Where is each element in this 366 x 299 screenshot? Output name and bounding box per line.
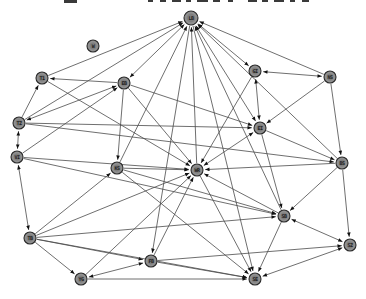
graph-edge (256, 79, 260, 120)
graph-edge (48, 21, 182, 75)
node-label: LB (188, 15, 194, 21)
cropped-text-fragment (290, 0, 295, 2)
graph-node[interactable]: LB (184, 11, 198, 25)
graph-edge (120, 26, 187, 162)
graph-edge (200, 176, 251, 272)
node-label: T1 (39, 75, 45, 81)
node-label: TB (27, 235, 33, 241)
graph-edge (200, 22, 324, 75)
node-label: GI (252, 68, 258, 74)
graph-node[interactable]: EB (118, 77, 130, 89)
graph-edge (18, 131, 19, 149)
node-label: EI (257, 125, 263, 131)
cropped-text-fragment (148, 0, 153, 2)
graph-edge (263, 72, 322, 77)
graph-edge (266, 131, 334, 160)
graph-node[interactable]: SB (278, 210, 290, 222)
node-label: VI (14, 154, 20, 160)
graph-edge (292, 219, 343, 241)
node-label: EB (121, 80, 127, 86)
node-label: SZ (347, 242, 353, 248)
node-label: BS (339, 160, 345, 166)
graph-edge (18, 165, 28, 230)
cropped-text-fragment (262, 0, 268, 2)
graph-node[interactable]: T1 (36, 72, 48, 84)
graph-edge (89, 263, 143, 277)
graph-edge (158, 262, 247, 277)
graph-edge (24, 158, 189, 170)
graph-edge (35, 173, 110, 234)
node-label: SE (252, 276, 258, 282)
graph-edge (290, 168, 337, 211)
graph-edge (263, 248, 343, 276)
graph-node[interactable]: NS (324, 71, 336, 83)
cropped-text-fragment (172, 0, 181, 2)
graph-node[interactable]: TB (24, 232, 36, 244)
cropped-text-fragment (228, 0, 233, 2)
graph-edge (130, 24, 185, 77)
node-label: SB (281, 213, 287, 219)
graph-edge (331, 84, 341, 155)
graph-node[interactable]: WR (191, 164, 203, 176)
cropped-text-fragment (213, 0, 220, 2)
cropped-text-fragment (248, 0, 257, 2)
cropped-text-fragment (160, 0, 166, 2)
graph-node[interactable]: EI (254, 122, 266, 134)
graph-edge (22, 85, 38, 117)
graph-node[interactable]: SZ (344, 239, 356, 251)
graph-node[interactable]: VI (11, 151, 23, 163)
graph-edge (26, 124, 334, 162)
graph-node[interactable]: W (87, 40, 99, 52)
node-label: KS (114, 165, 120, 171)
graph-edge (195, 26, 281, 210)
graph-edge (258, 222, 281, 271)
graph-node[interactable]: SE (249, 273, 261, 285)
graph-edge (50, 79, 117, 83)
network-diagram: LBWT1EBGINSTZVIKSEIWRBSTBYGFBSBSZSE (0, 0, 366, 299)
cropped-text-fragment (197, 0, 208, 2)
graph-edge (35, 242, 74, 274)
graph-node[interactable]: BS (336, 157, 348, 169)
graph-edge (191, 27, 196, 163)
node-label: NS (327, 74, 333, 80)
graph-edge (267, 81, 325, 123)
network-graph-svg: LBWT1EBGINSTZVIKSEIWRBSTBYGFBSBSZSE (0, 0, 366, 299)
graph-edge (37, 217, 276, 238)
cropped-text-fragment (186, 0, 191, 2)
graph-node[interactable]: GI (249, 65, 261, 77)
graph-node[interactable]: TZ (13, 117, 25, 129)
cropped-text-fragment (64, 0, 77, 3)
graph-edge (25, 23, 183, 120)
node-label: TZ (16, 120, 22, 126)
edge-layer (18, 21, 350, 279)
graph-node[interactable]: YG (75, 273, 87, 285)
graph-edge (198, 24, 249, 66)
node-label: FB (148, 258, 154, 264)
cropped-title-fragments (64, 0, 309, 3)
cropped-text-fragment (274, 0, 284, 2)
graph-edge (23, 88, 118, 153)
graph-edge (262, 135, 282, 209)
cropped-text-fragment (302, 0, 309, 2)
graph-edge (198, 24, 338, 158)
node-label: YG (78, 276, 84, 282)
graph-node[interactable]: KS (111, 162, 123, 174)
graph-edge (131, 85, 253, 125)
graph-node[interactable]: FB (145, 255, 157, 267)
graph-edge (343, 170, 350, 237)
